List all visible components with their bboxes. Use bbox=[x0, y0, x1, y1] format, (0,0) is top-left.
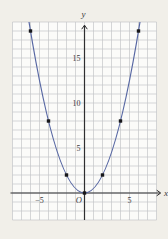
parabola-graph: 51015−55Oyx bbox=[0, 0, 168, 239]
data-point bbox=[65, 173, 68, 176]
origin-label: O bbox=[76, 195, 82, 205]
y-axis-label: y bbox=[81, 9, 86, 19]
y-tick-label: 15 bbox=[73, 54, 81, 63]
data-point bbox=[101, 173, 104, 176]
data-point bbox=[119, 119, 122, 122]
x-axis-label: x bbox=[163, 188, 168, 198]
data-point bbox=[137, 29, 140, 32]
x-tick-label: −5 bbox=[35, 196, 44, 205]
plot-svg: 51015−55Oyx bbox=[0, 0, 168, 239]
data-point bbox=[29, 29, 32, 32]
y-tick-label: 10 bbox=[73, 99, 81, 108]
data-point bbox=[83, 191, 86, 194]
data-point bbox=[47, 119, 50, 122]
y-tick-label: 5 bbox=[77, 144, 81, 153]
x-tick-label: 5 bbox=[128, 196, 132, 205]
